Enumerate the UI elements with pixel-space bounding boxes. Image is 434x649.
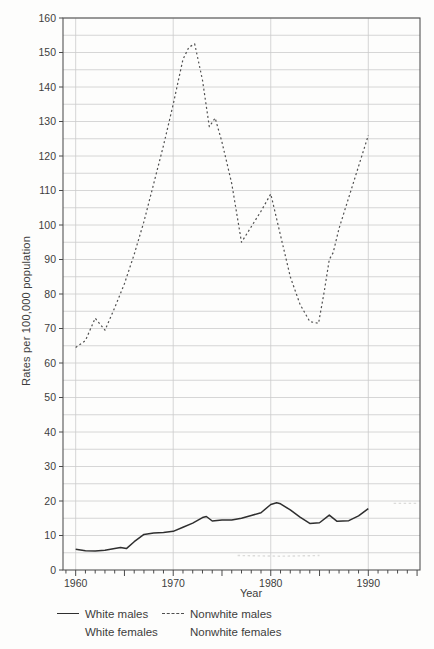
svg-text:110: 110 xyxy=(39,184,56,196)
y-axis-ticks: 0102030405060708090100110120130140150160 xyxy=(38,12,63,576)
svg-text:30: 30 xyxy=(44,460,56,472)
gridlines xyxy=(63,18,420,570)
svg-text:0: 0 xyxy=(50,564,56,576)
legend-label: Nonwhite females xyxy=(190,626,281,638)
legend-label: Nonwhite males xyxy=(190,608,272,620)
svg-text:50: 50 xyxy=(44,391,56,403)
svg-text:1990: 1990 xyxy=(357,577,381,589)
svg-text:40: 40 xyxy=(44,426,56,438)
legend-row-2: White females Nonwhite females xyxy=(57,624,281,639)
solid-line-swatch-icon xyxy=(57,607,79,620)
blank-swatch xyxy=(57,625,79,638)
dashed-line-swatch-icon xyxy=(162,607,184,620)
legend: White males Nonwhite males White females… xyxy=(57,606,281,642)
legend-item-nonwhite-females: Nonwhite females xyxy=(162,625,281,638)
svg-text:100: 100 xyxy=(38,219,56,231)
legend-label: White males xyxy=(85,608,148,620)
svg-text:1970: 1970 xyxy=(162,577,186,589)
chart-figure: 0102030405060708090100110120130140150160… xyxy=(0,0,434,649)
nonwhite-males-line xyxy=(76,44,369,348)
legend-row-1: White males Nonwhite males xyxy=(57,606,281,621)
svg-text:20: 20 xyxy=(44,495,56,507)
svg-text:150: 150 xyxy=(38,46,56,58)
svg-text:140: 140 xyxy=(38,81,56,93)
x-axis-title: Year xyxy=(240,587,262,599)
svg-text:1960: 1960 xyxy=(64,577,88,589)
svg-text:60: 60 xyxy=(44,357,56,369)
svg-text:130: 130 xyxy=(38,115,56,127)
y-axis-title: Rates per 100,000 population xyxy=(20,236,32,386)
scan-artifacts xyxy=(238,503,417,556)
line-chart: 0102030405060708090100110120130140150160… xyxy=(0,0,434,649)
svg-text:160: 160 xyxy=(38,12,56,24)
legend-item-nonwhite-males: Nonwhite males xyxy=(162,607,272,620)
legend-item-white-males: White males xyxy=(57,607,162,620)
white-males-line xyxy=(76,503,369,551)
svg-text:80: 80 xyxy=(44,288,56,300)
blank-swatch xyxy=(162,625,184,638)
legend-item-white-females: White females xyxy=(57,625,162,638)
legend-label: White females xyxy=(85,626,158,638)
svg-text:10: 10 xyxy=(44,529,56,541)
svg-text:90: 90 xyxy=(44,253,56,265)
svg-text:70: 70 xyxy=(44,322,56,334)
svg-text:1980: 1980 xyxy=(259,577,283,589)
svg-text:120: 120 xyxy=(38,150,56,162)
